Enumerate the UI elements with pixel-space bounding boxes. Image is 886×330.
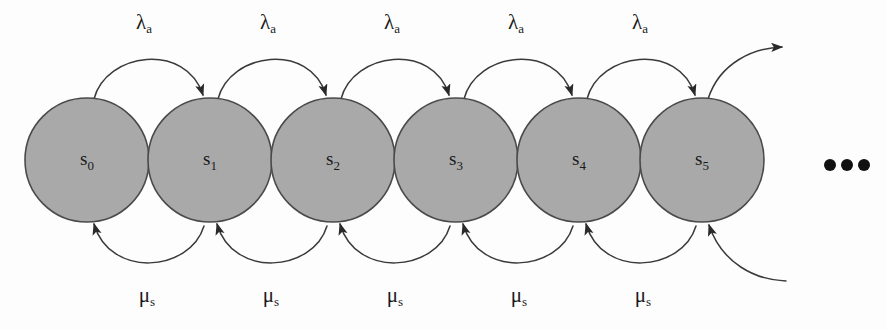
- edge-s4-s3: [463, 224, 573, 263]
- rate-label-mu-4: μs: [635, 283, 651, 309]
- edge-s5-outgoing-open: [708, 47, 782, 99]
- rate-label-lambda-0: λa: [136, 10, 152, 36]
- rate-label-mu-2: μs: [387, 283, 403, 309]
- rate-label-mu-1: μs: [263, 283, 279, 309]
- diagram-canvas: s0 s1 s2 s3: [0, 0, 886, 330]
- forward-rate-labels: λa λa λa λa λa: [136, 10, 648, 36]
- state-node-s1[interactable]: s1: [148, 98, 272, 222]
- ellipsis-dot-3: [858, 159, 870, 171]
- state-node-s2[interactable]: s2: [271, 98, 395, 222]
- rate-label-mu-3: μs: [511, 283, 527, 309]
- markov-chain-diagram: s0 s1 s2 s3: [0, 0, 886, 330]
- rate-label-lambda-4: λa: [632, 10, 648, 36]
- ellipsis-continuation-icon: [824, 159, 870, 171]
- forward-transition-edges: [94, 59, 695, 99]
- edge-s2-s3: [341, 59, 449, 99]
- rate-label-lambda-1: λa: [260, 10, 276, 36]
- edge-s4-s5: [587, 59, 695, 99]
- state-nodes: s0 s1 s2 s3: [25, 98, 764, 222]
- state-node-s4[interactable]: s4: [517, 98, 641, 222]
- edge-incoming-open-s5: [709, 225, 786, 281]
- edge-s2-s1: [217, 224, 327, 263]
- edge-s3-s2: [340, 224, 450, 263]
- edge-s1-s2: [218, 59, 326, 99]
- ellipsis-dot-1: [824, 159, 836, 171]
- edge-s3-s4: [464, 59, 572, 99]
- ellipsis-dot-2: [841, 159, 853, 171]
- rate-label-mu-0: μs: [139, 283, 155, 309]
- rate-label-lambda-3: λa: [508, 10, 524, 36]
- state-node-s5[interactable]: s5: [640, 98, 764, 222]
- edge-s5-s4: [586, 224, 696, 263]
- state-node-s0[interactable]: s0: [25, 98, 149, 222]
- backward-transition-edges: [94, 224, 696, 263]
- edge-s1-s0: [94, 224, 204, 263]
- rate-label-lambda-2: λa: [384, 10, 400, 36]
- edge-s0-s1: [94, 59, 203, 99]
- state-node-s3[interactable]: s3: [394, 98, 518, 222]
- backward-rate-labels: μs μs μs μs μs: [139, 283, 651, 309]
